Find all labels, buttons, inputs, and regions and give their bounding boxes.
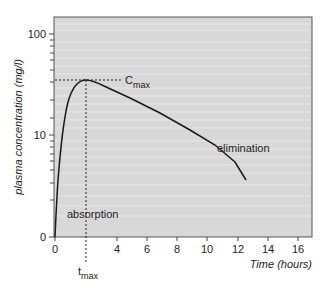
y-axis-ticks: [49, 34, 54, 237]
x-tick-14: 14: [262, 243, 274, 255]
x-tick-16: 16: [292, 243, 304, 255]
x-tick-10: 10: [201, 243, 213, 255]
x-axis-ticks: [55, 237, 298, 241]
y-tick-10: 10: [34, 129, 46, 141]
pharmacokinetic-chart: 100 10 0 0 4 6 8 10 12 14 16 Time (hours…: [0, 0, 328, 289]
y-tick-100: 100: [28, 28, 46, 40]
y-axis-title: plasma concentration (mg/l): [12, 59, 24, 196]
elimination-label: elimination: [217, 142, 270, 154]
x-tick-0: 0: [52, 243, 58, 255]
tmax-label: tmax: [78, 265, 99, 281]
x-tick-12: 12: [232, 243, 244, 255]
x-tick-8: 8: [174, 243, 180, 255]
x-tick-6: 6: [144, 243, 150, 255]
x-tick-4: 4: [114, 243, 120, 255]
absorption-label: absorption: [67, 208, 118, 220]
y-tick-0: 0: [40, 231, 46, 243]
x-axis-title: Time (hours): [250, 258, 313, 270]
